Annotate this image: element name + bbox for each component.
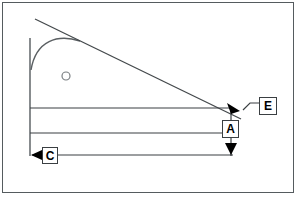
profile-curve — [31, 38, 80, 70]
label-box-a[interactable]: A — [222, 120, 239, 138]
diagram-canvas — [0, 0, 298, 197]
arrowhead-c-icon — [31, 150, 42, 160]
circle-marker — [62, 72, 70, 80]
leader-line-e — [243, 103, 259, 110]
label-box-e[interactable]: E — [259, 97, 277, 115]
diagram-stage: E A C — [0, 0, 298, 197]
arrowhead-a-icon — [225, 143, 237, 155]
label-box-c[interactable]: C — [42, 147, 58, 164]
diagonal-tangent-line — [35, 19, 241, 119]
